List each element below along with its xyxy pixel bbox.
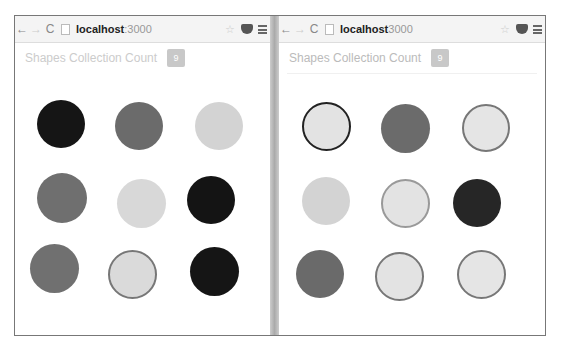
url-port: 3000 <box>388 23 412 35</box>
circle-shape[interactable] <box>190 247 239 296</box>
circle-shape[interactable] <box>195 102 243 150</box>
address-bar[interactable]: localhost 3000 <box>325 23 500 35</box>
circle-shape[interactable] <box>37 173 87 223</box>
reload-button[interactable]: C <box>307 22 321 36</box>
forward-button[interactable]: → <box>29 22 43 36</box>
circle-shape[interactable] <box>381 104 430 153</box>
circle-shape[interactable] <box>462 104 510 152</box>
hamburger-menu-icon[interactable] <box>258 25 267 34</box>
circle-shape[interactable] <box>457 250 506 299</box>
forward-button[interactable]: → <box>293 22 307 36</box>
browser-window-left: ← → C localhost:3000 ☆ Shapes Collection… <box>15 16 270 335</box>
circle-shape[interactable] <box>296 250 344 298</box>
back-button[interactable]: ← <box>279 22 293 36</box>
url-host: localhost <box>340 23 388 35</box>
circle-shape[interactable] <box>30 244 79 293</box>
address-bar[interactable]: localhost:3000 <box>61 23 225 35</box>
browser-window-right: ← → C localhost 3000 ☆ Shapes Collection… <box>279 16 545 335</box>
page-title: Shapes Collection Count <box>25 51 157 65</box>
page-icon <box>325 24 334 35</box>
pocket-icon[interactable] <box>516 24 528 34</box>
screenshot-frame: ← → C localhost:3000 ☆ Shapes Collection… <box>14 15 546 336</box>
back-button[interactable]: ← <box>15 22 29 36</box>
circle-shape[interactable] <box>187 176 235 224</box>
circle-shape[interactable] <box>453 179 501 227</box>
url-host: localhost <box>76 23 124 35</box>
page-title: Shapes Collection Count <box>289 51 421 65</box>
browser-toolbar: ← → C localhost 3000 ☆ <box>279 16 545 43</box>
circle-shape[interactable] <box>302 177 350 225</box>
url-port: :3000 <box>124 23 152 35</box>
circle-shape[interactable] <box>375 252 424 301</box>
bookmark-star-icon[interactable]: ☆ <box>500 23 510 36</box>
browser-toolbar: ← → C localhost:3000 ☆ <box>15 16 270 43</box>
count-badge: 9 <box>167 49 185 67</box>
hamburger-menu-icon[interactable] <box>533 25 542 34</box>
page-header: Shapes Collection Count 9 <box>287 43 537 74</box>
reload-button[interactable]: C <box>43 22 57 36</box>
window-divider[interactable] <box>270 16 279 335</box>
circle-shape[interactable] <box>302 102 351 151</box>
circle-shape[interactable] <box>115 102 163 150</box>
bookmark-star-icon[interactable]: ☆ <box>225 23 235 36</box>
circle-shape[interactable] <box>117 179 166 228</box>
count-badge: 9 <box>431 49 449 67</box>
pocket-icon[interactable] <box>241 24 253 34</box>
circle-shape[interactable] <box>108 250 157 299</box>
page-header: Shapes Collection Count 9 <box>15 43 270 73</box>
circle-shape[interactable] <box>381 179 430 228</box>
circle-shape[interactable] <box>37 100 85 148</box>
page-icon <box>61 24 70 35</box>
